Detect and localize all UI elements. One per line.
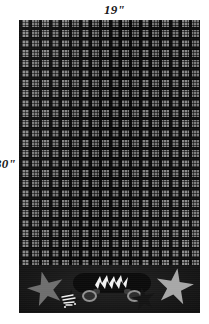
skateboard-wheel-front — [82, 290, 97, 302]
star-icon-right-large — [152, 265, 196, 309]
plaid-shading-overlay — [19, 20, 200, 265]
fabric-swatch-panel — [19, 20, 200, 313]
height-dimension-label: 30" — [0, 157, 16, 170]
border-band — [19, 265, 200, 313]
lightning-bolt-icon — [94, 275, 130, 290]
width-dimension-label: 19" — [104, 3, 125, 16]
plaid-fabric-field — [19, 20, 200, 265]
